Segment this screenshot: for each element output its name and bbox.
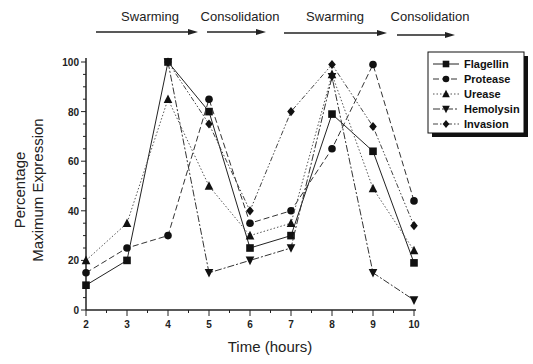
phase-label: Swarming xyxy=(306,9,364,24)
y-axis-title-line: Percentage xyxy=(11,152,28,229)
y-axis-title-line: Maximum Expression xyxy=(29,118,46,261)
x-tick-label: 3 xyxy=(124,319,130,330)
x-tick-label: 4 xyxy=(165,319,171,330)
series-invasion xyxy=(164,57,418,230)
series-line xyxy=(168,62,414,300)
square-marker-icon xyxy=(123,257,131,265)
arrowhead-icon xyxy=(188,29,198,35)
y-axis-title: PercentageMaximum Expression xyxy=(11,118,46,261)
x-tick-label: 8 xyxy=(329,319,335,330)
arrowhead-icon xyxy=(445,32,455,38)
triangle-up-marker-icon xyxy=(369,184,378,193)
circle-marker-icon xyxy=(443,76,450,83)
x-tick-label: 10 xyxy=(408,319,420,330)
circle-marker-icon xyxy=(246,219,254,227)
legend-label: Invasion xyxy=(464,118,509,130)
triangle-up-marker-icon xyxy=(205,181,214,190)
circle-marker-icon xyxy=(123,244,131,252)
square-marker-icon xyxy=(328,110,336,118)
x-tick-label: 7 xyxy=(288,319,294,330)
y-tick-label: 40 xyxy=(68,206,80,217)
triangle-up-marker-icon xyxy=(164,94,173,103)
phase-label: Swarming xyxy=(121,9,179,24)
triangle-up-marker-icon xyxy=(410,246,419,255)
y-tick-label: 100 xyxy=(62,57,79,68)
data-series xyxy=(82,57,419,304)
triangle-down-marker-icon xyxy=(410,296,419,305)
axes: 0204060801002345678910 xyxy=(62,57,420,330)
square-marker-icon xyxy=(82,281,90,289)
expression-line-chart: SwarmingConsolidationSwarmingConsolidati… xyxy=(0,0,533,364)
arrowhead-icon xyxy=(377,30,387,36)
triangle-up-marker-icon xyxy=(287,218,296,227)
circle-marker-icon xyxy=(205,95,213,103)
circle-marker-icon xyxy=(369,61,377,69)
circle-marker-icon xyxy=(164,232,172,240)
triangle-down-marker-icon xyxy=(205,269,214,278)
circle-marker-icon xyxy=(410,197,418,205)
triangle-up-marker-icon xyxy=(246,231,255,240)
triangle-down-marker-icon xyxy=(287,244,296,253)
square-marker-icon xyxy=(205,108,213,116)
x-tick-label: 6 xyxy=(247,319,253,330)
square-marker-icon xyxy=(443,61,450,68)
legend-label: Urease xyxy=(464,88,501,100)
circle-marker-icon xyxy=(82,269,90,277)
series-hemolysin xyxy=(164,58,419,305)
square-marker-icon xyxy=(410,259,418,267)
x-tick-label: 9 xyxy=(370,319,376,330)
triangle-down-marker-icon xyxy=(246,257,255,266)
series-line xyxy=(168,62,414,226)
phase-annotations: SwarmingConsolidationSwarmingConsolidati… xyxy=(96,9,469,38)
y-tick-label: 60 xyxy=(68,156,80,167)
diamond-marker-icon xyxy=(410,221,418,230)
series-line xyxy=(86,64,414,272)
x-tick-label: 2 xyxy=(83,319,89,330)
legend-label: Flagellin xyxy=(464,58,509,70)
square-marker-icon xyxy=(369,147,377,155)
square-marker-icon xyxy=(246,244,254,252)
y-tick-label: 0 xyxy=(73,305,79,316)
x-axis-title: Time (hours) xyxy=(228,338,312,355)
arrowhead-icon xyxy=(256,29,266,35)
legend: FlagellinProteaseUreaseHemolysinInvasion xyxy=(428,52,528,137)
phase-label: Consolidation xyxy=(391,9,470,24)
x-tick-label: 5 xyxy=(206,319,212,330)
phase-label: Consolidation xyxy=(201,9,280,24)
y-tick-label: 20 xyxy=(68,255,80,266)
legend-label: Protease xyxy=(464,73,510,85)
y-tick-label: 80 xyxy=(68,107,80,118)
legend-label: Hemolysin xyxy=(464,103,520,115)
triangle-up-marker-icon xyxy=(123,218,132,227)
circle-marker-icon xyxy=(328,145,336,153)
triangle-down-marker-icon xyxy=(369,269,378,278)
